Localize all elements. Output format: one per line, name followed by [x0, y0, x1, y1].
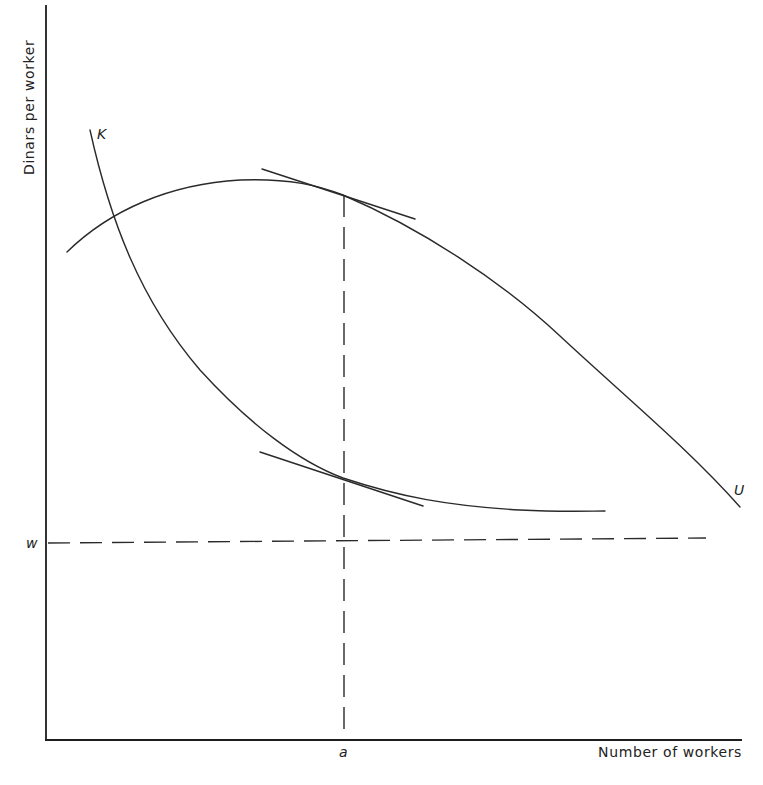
curve-u	[67, 180, 740, 507]
tangent-line-lower	[260, 452, 423, 506]
y-axis-title: Dinars per worker	[21, 40, 37, 175]
curve-k-label: K	[97, 126, 108, 142]
horizontal-dashed-line-w	[48, 538, 706, 543]
y-mark-w: w	[26, 535, 38, 551]
tangent-line-upper	[262, 169, 415, 219]
curve-k	[90, 130, 605, 511]
curve-u-label: U	[734, 482, 744, 498]
x-axis-title: Number of workers	[598, 744, 742, 760]
x-mark-a: a	[339, 744, 348, 760]
diagram-canvas: Dinars per worker Number of workers K U …	[0, 0, 763, 785]
